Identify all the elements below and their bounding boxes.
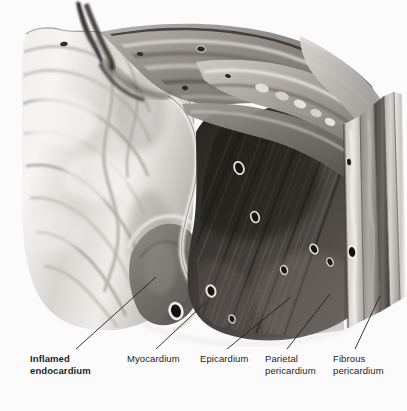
label-fibrous-pericardium-line1: Fibrous [333, 353, 384, 365]
label-epicardium-line1: Epicardium [200, 353, 249, 365]
label-parietal-pericardium: Parietal pericardium [265, 353, 316, 376]
heart-wall-illustration [0, 0, 407, 350]
label-parietal-pericardium-line1: Parietal [265, 353, 316, 365]
label-inflamed-endocardium: Inflamed endocardium [30, 353, 91, 376]
anatomical-figure: Inflamed endocardium Myocardium Epicardi… [0, 0, 407, 411]
label-inflamed-endocardium-line1: Inflamed [30, 353, 91, 365]
label-parietal-pericardium-line2: pericardium [265, 365, 316, 377]
label-fibrous-pericardium: Fibrous pericardium [333, 353, 384, 376]
label-inflamed-endocardium-line2: endocardium [30, 365, 91, 377]
label-myocardium: Myocardium [127, 353, 180, 365]
label-fibrous-pericardium-line2: pericardium [333, 365, 384, 377]
pericardium-cut-face [344, 92, 406, 328]
label-myocardium-line1: Myocardium [127, 353, 180, 365]
label-epicardium: Epicardium [200, 353, 249, 365]
